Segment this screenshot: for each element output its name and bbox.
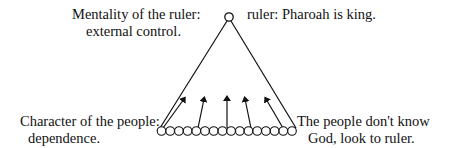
dependence-arrows [163,98,283,128]
people-character-line2: dependence. [20,130,160,147]
triangle-right-side [231,21,296,128]
arrow [198,99,204,128]
ruler-people-diagram: Mentality of the ruler: external control… [0,0,455,148]
people-condition-line1: The people don't know [297,113,430,130]
ruler-identity-line1: ruler: Pharoah is king. [247,6,376,23]
arrow [163,99,184,128]
ruler-mentality-line2: external control. [72,23,200,40]
people-condition-label: The people don't know God, look to ruler… [297,113,430,147]
ruler-identity-label: ruler: Pharoah is king. [247,6,376,23]
ruler-node [225,13,233,21]
people-condition-line2: God, look to ruler. [297,130,430,147]
ruler-mentality-label: Mentality of the ruler: external control… [72,6,200,40]
people-character-label: Character of the people: dependence. [20,113,160,147]
people-character-line1: Character of the people: [20,113,160,130]
arrow [245,99,251,128]
ruler-mentality-line1: Mentality of the ruler: [72,6,200,23]
